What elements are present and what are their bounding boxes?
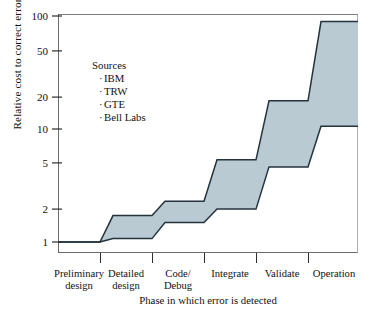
figure-canvas: Relative cost to correct error 100 50 xyxy=(0,0,373,311)
sources-annotation: Sources · IBM · TRW · GTE · Bell Labs xyxy=(92,59,146,123)
chart-figure: Relative cost to correct error 100 50 xyxy=(0,0,373,311)
x-tick-label-line1: Integrate xyxy=(211,268,249,279)
sources-item-ibm: IBM xyxy=(104,72,125,84)
y-tick-5: 5 xyxy=(43,157,63,169)
x-tick-label-line1: Code/ xyxy=(165,268,190,279)
sources-heading: Sources xyxy=(92,59,126,71)
y-tick-2: 2 xyxy=(43,203,63,215)
sources-item-bell-labs: Bell Labs xyxy=(104,111,146,123)
y-tick-label: 50 xyxy=(37,45,49,57)
x-tick-label-code-debug: Code/ Debug xyxy=(164,268,193,291)
sources-bullet-3: · xyxy=(99,111,103,123)
y-tick-label: 10 xyxy=(37,123,49,135)
x-tick-label-line1: Preliminary xyxy=(54,268,105,279)
bullet-glyph: · xyxy=(99,72,103,84)
bullet-glyph: · xyxy=(99,111,103,123)
sources-bullet-2: · xyxy=(99,98,103,110)
y-tick-label: 2 xyxy=(43,203,49,215)
x-tick-label-operation: Operation xyxy=(313,268,356,279)
y-tick-100: 100 xyxy=(32,10,63,22)
x-tick-label-integrate: Integrate xyxy=(211,268,249,279)
y-tick-label: 100 xyxy=(32,10,49,22)
y-axis-ticks: 100 50 20 10 5 xyxy=(32,10,63,248)
x-axis-labels: Preliminary design Detailed design Code/… xyxy=(54,268,356,291)
bullet-glyph: · xyxy=(99,85,103,97)
y-tick-label: 20 xyxy=(37,91,49,103)
x-tick-label-line1: Operation xyxy=(313,268,356,279)
sources-bullet-0: · xyxy=(99,72,103,84)
x-tick-label-line1: Detailed xyxy=(108,268,145,279)
x-tick-label-preliminary-design: Preliminary design xyxy=(54,268,105,291)
y-tick-label: 5 xyxy=(43,157,49,169)
x-tick-label-line2: design xyxy=(112,280,140,291)
x-axis-title: Phase in which error is detected xyxy=(139,294,277,306)
cost-band-area xyxy=(58,22,358,242)
x-tick-label-detailed-design: Detailed design xyxy=(108,268,145,291)
plot-svg: 100 50 20 10 5 xyxy=(0,0,373,311)
x-tick-label-validate: Validate xyxy=(265,268,300,279)
x-tick-label-line1: Validate xyxy=(265,268,300,279)
x-tick-label-line2: design xyxy=(65,280,93,291)
sources-item-gte: GTE xyxy=(104,98,125,110)
x-tick-label-line2: Debug xyxy=(164,280,193,291)
bullet-glyph: · xyxy=(99,98,103,110)
sources-bullet-1: · xyxy=(99,85,103,97)
sources-item-trw: TRW xyxy=(104,85,128,97)
x-axis-ticks xyxy=(101,253,309,263)
y-tick-label: 1 xyxy=(43,236,49,248)
cost-band-series xyxy=(58,22,358,242)
